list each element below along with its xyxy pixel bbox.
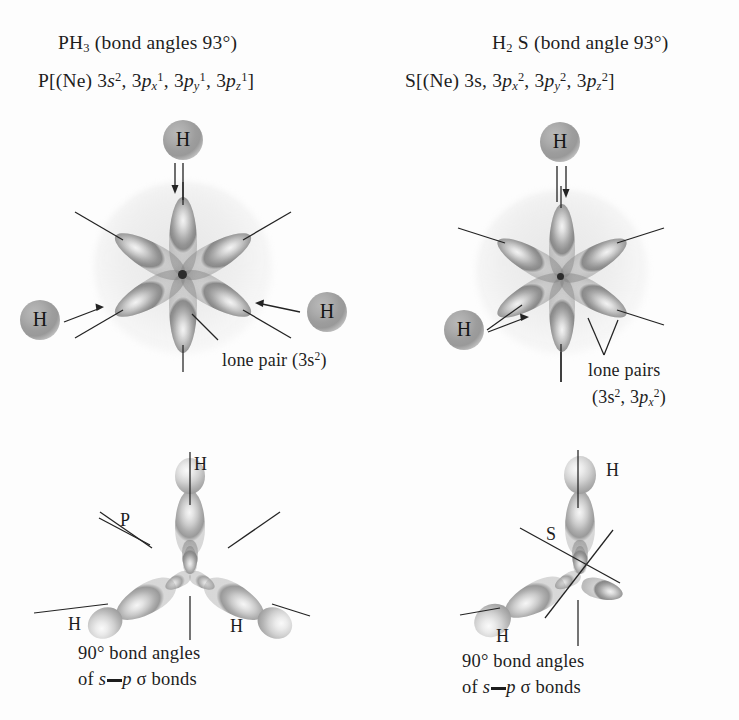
- left-panel-title: PH3 (bond angles 93°): [58, 28, 237, 58]
- h2s-orbital-diagram: [472, 188, 652, 368]
- caption-s: s: [483, 677, 490, 697]
- left-config-p3: p: [226, 70, 236, 91]
- left-title-molecule-sub: 3: [83, 41, 89, 55]
- left-config-p1: p: [142, 70, 152, 91]
- left-lone-pair-label: lone pair (3s2): [222, 348, 327, 372]
- caption-sigma: σ: [521, 677, 531, 697]
- hydrogen-label: H: [457, 318, 471, 341]
- right-central-atom-label: S: [546, 522, 556, 546]
- sigma-bond-orbital: [73, 557, 200, 654]
- right-config-suffix: ]: [608, 70, 615, 91]
- right-lone-pairs-label: lone pairs: [588, 358, 660, 382]
- h2s-sigma-bond-diagram: [460, 450, 690, 630]
- left-title-molecule: PH: [58, 32, 83, 53]
- bottom-right-hydrogen-label: H: [496, 624, 509, 648]
- hydrogen-atom-sphere: H: [307, 292, 347, 332]
- right-config-p1: p: [502, 70, 512, 91]
- back-lobe: [572, 540, 588, 574]
- left-caption: 90° bond angles of sp σ bonds: [78, 640, 200, 692]
- ph3-orbital-diagram: [88, 180, 278, 370]
- ph3-sigma-bond-diagram: [70, 450, 310, 630]
- left-config-p2: p: [184, 70, 194, 91]
- right-caption-line2: of sp σ bonds: [462, 674, 584, 700]
- lone-pair-text: lone pair (3s: [222, 350, 315, 370]
- hydrogen-atom-sphere: H: [163, 120, 203, 160]
- lone-pair-close: ): [321, 350, 327, 370]
- right-title-molecule-tail: S: [513, 32, 529, 53]
- right-config-prefix: S[(Ne) 3s, 3: [405, 70, 502, 91]
- left-config-prefix: P[(Ne) 3: [38, 70, 107, 91]
- right-config-sep2: , 3: [524, 70, 544, 91]
- lp-detail-close: ): [660, 387, 666, 407]
- hydrogen-label: H: [176, 128, 190, 151]
- caption-bonds: bonds: [531, 677, 581, 697]
- hydrogen-atom-sphere: H: [444, 310, 484, 350]
- caption-sigma: σ: [137, 669, 147, 689]
- right-lone-pairs-detail: (3s2, 3px2): [592, 385, 666, 409]
- sigma-bond-orbital: [180, 557, 307, 654]
- back-lobe: [182, 540, 198, 574]
- left-caption-line2: of sp σ bonds: [78, 666, 200, 692]
- right-caption: 90° bond angles of sp σ bonds: [462, 648, 584, 700]
- lp-detail-p: p: [639, 387, 648, 407]
- caption-p: p: [122, 669, 131, 689]
- nucleus-dot: [557, 273, 564, 280]
- orbital-figure: PH3 (bond angles 93°) P[(Ne) 3s2, 3px1, …: [0, 0, 739, 720]
- right-title-molecule: H: [492, 32, 506, 53]
- left-config-sep2: , 3: [164, 70, 184, 91]
- bottom-left-hydrogen-label: H: [194, 452, 207, 476]
- hydrogen-label: H: [320, 300, 334, 323]
- right-panel-title: H2 S (bond angle 93°): [492, 28, 668, 58]
- sigma-bond-orbital: [461, 556, 589, 650]
- right-config-p2: p: [544, 70, 554, 91]
- lp-detail-open: (3s: [592, 387, 615, 407]
- right-panel-config: S[(Ne) 3s, 3px2, 3py2, 3pz2]: [405, 66, 615, 96]
- hydrogen-label: H: [33, 308, 47, 331]
- left-caption-line1: 90° bond angles: [78, 643, 200, 663]
- caption-p: p: [506, 677, 515, 697]
- bottom-left-hydrogen-label: H: [230, 614, 243, 638]
- caption-of: of: [462, 677, 483, 697]
- nucleus-dot: [178, 270, 187, 279]
- caption-bonds: bonds: [147, 669, 197, 689]
- right-config-p3: p: [587, 70, 597, 91]
- left-title-angle: (bond angles 93°): [95, 32, 237, 53]
- left-central-atom-label: P: [120, 508, 130, 532]
- left-config-sep3: , 3: [206, 70, 226, 91]
- back-lobe: [579, 574, 625, 604]
- bottom-right-hydrogen-label: H: [606, 458, 619, 482]
- bottom-left-hydrogen-label: H: [68, 612, 81, 636]
- right-config-sep3: , 3: [567, 70, 587, 91]
- left-config-suffix: ]: [248, 70, 255, 91]
- left-config-s: s: [107, 70, 115, 91]
- right-title-angle: (bond angle 93°): [534, 32, 668, 53]
- lp-detail-mid: , 3: [621, 387, 640, 407]
- hydrogen-atom-sphere: H: [540, 122, 580, 162]
- left-panel-config: P[(Ne) 3s2, 3px1, 3py1, 3pz1]: [38, 66, 254, 96]
- em-dash: [491, 687, 506, 689]
- hydrogen-label: H: [553, 130, 567, 153]
- right-caption-line1: 90° bond angles: [462, 651, 584, 671]
- hydrogen-atom-sphere: H: [20, 300, 60, 340]
- left-config-sep1: , 3: [122, 70, 142, 91]
- caption-of: of: [78, 669, 99, 689]
- caption-s: s: [99, 669, 106, 689]
- em-dash: [107, 679, 122, 681]
